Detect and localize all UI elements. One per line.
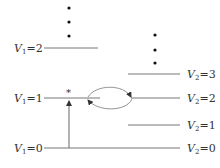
excited-star-icon: * (66, 87, 71, 98)
left-continuation-dots-icon (67, 6, 70, 37)
energy-level-diagram: V1=2 V2=3 V1=1 * V2=2 V2=1 V1=0 V2=0 (0, 0, 220, 168)
level-label-v2-1: V2=1 (187, 119, 216, 133)
level-v1-1: V1=1 * (14, 87, 100, 106)
level-ground: V1=0 V2=0 (14, 142, 216, 156)
transfer-arrow-back-icon (88, 99, 132, 109)
level-v2-2: V2=2 (131, 92, 216, 106)
level-label-v1-1: V1=1 (14, 92, 43, 106)
level-v2-3: V2=3 (128, 68, 216, 82)
level-v1-2: V1=2 (14, 42, 98, 56)
level-label-v2-3: V2=3 (187, 68, 216, 82)
right-continuation-dots-icon (153, 33, 156, 64)
level-label-v1-0: V1=0 (14, 142, 43, 156)
transfer-arrow-forward-icon (88, 87, 131, 97)
level-v2-1: V2=1 (128, 119, 216, 133)
level-label-v1-2: V1=2 (14, 42, 43, 56)
level-label-v2-0: V2=0 (187, 142, 216, 156)
level-label-v2-2: V2=2 (187, 92, 216, 106)
